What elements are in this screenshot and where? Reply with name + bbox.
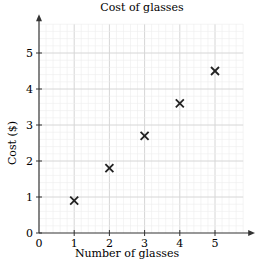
y-axis-label: Cost ($)	[6, 121, 19, 165]
y-tick-label: 3	[26, 119, 33, 132]
x-tick-label: 0	[36, 237, 43, 250]
y-tick-label: 2	[26, 155, 33, 168]
tick-labels: 012345012345	[26, 47, 219, 250]
x-tick-label: 5	[212, 237, 219, 250]
y-tick-label: 0	[26, 227, 33, 240]
y-tick-label: 5	[26, 47, 33, 60]
scatter-chart: Cost of glasses 012345012345 Number of g…	[0, 0, 255, 271]
x-axis-label: Number of glasses	[75, 247, 180, 260]
x-axis-arrow-icon	[248, 230, 255, 236]
chart-title: Cost of glasses	[100, 1, 184, 14]
grid	[39, 24, 243, 233]
y-tick-label: 1	[26, 191, 33, 204]
y-axis-arrow-icon	[36, 14, 42, 21]
y-tick-label: 4	[26, 83, 33, 96]
